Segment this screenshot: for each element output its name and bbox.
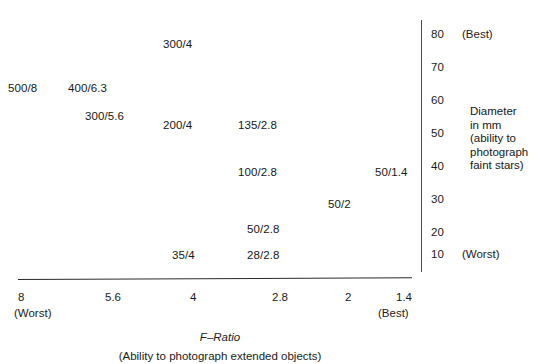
data-point-label: 50/2.8 [247, 223, 280, 235]
x-axis-title: F–Ratio [0, 331, 440, 343]
data-point-label: 300/4 [163, 38, 192, 50]
data-point-label: 35/4 [172, 249, 195, 261]
y-axis-tick-label: 20 [431, 226, 444, 238]
y-axis-tick-label: 30 [431, 193, 444, 205]
data-point-label: 400/6.3 [68, 82, 107, 94]
y-axis-line [421, 20, 422, 272]
y-axis-worst-label: (Worst) [462, 248, 499, 260]
y-axis-tick-label: 50 [431, 127, 444, 139]
y-axis-tick-label: 80 [431, 28, 444, 40]
x-axis-title-text: F–Ratio [200, 331, 240, 343]
x-axis-best-label: (Best) [378, 307, 409, 319]
x-axis-tick-label: 2.8 [272, 291, 288, 303]
y-axis-title: Diameter in mm (ability to photograph fa… [470, 105, 528, 173]
data-point-label: 300/5.6 [85, 110, 124, 122]
x-axis-tick-label: 5.6 [105, 291, 121, 303]
data-point-label: 200/4 [163, 119, 192, 131]
data-point-label: 500/8 [8, 82, 37, 94]
x-axis-subtitle: (Ability to photograph extended objects) [0, 350, 440, 362]
data-point-label: 28/2.8 [247, 249, 280, 261]
y-axis-tick-label: 60 [431, 94, 444, 106]
x-axis-worst-label: (Worst) [14, 307, 51, 319]
x-axis-tick-label: 2 [345, 291, 351, 303]
data-point-label: 50/1.4 [375, 166, 408, 178]
x-axis-tick-label: 4 [190, 291, 196, 303]
chart-canvas: 300/4 500/8 400/6.3 300/5.6 200/4 135/2.… [0, 0, 552, 364]
y-axis-tick-label: 70 [431, 61, 444, 73]
data-point-label: 135/2.8 [238, 119, 277, 131]
y-axis-best-label: (Best) [462, 28, 493, 40]
x-axis-tick-label: 8 [18, 291, 24, 303]
x-axis-tick-label: 1.4 [396, 291, 412, 303]
data-point-label: 50/2 [328, 198, 351, 210]
y-axis-tick-label: 10 [431, 248, 444, 260]
y-axis-tick-label: 40 [431, 160, 444, 172]
x-axis-line [18, 277, 412, 280]
data-point-label: 100/2.8 [238, 166, 277, 178]
